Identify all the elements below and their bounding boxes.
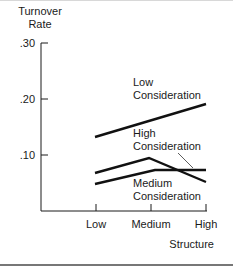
y-tick-label: .10 — [20, 149, 35, 161]
y-axis-title-line2: Rate — [28, 18, 51, 30]
y-axis-title-line1: Turnover — [18, 5, 62, 17]
series-label-medium-line1: Medium — [133, 177, 172, 189]
x-tick-label: Low — [86, 218, 106, 230]
series-label-low-line1: Low — [133, 76, 153, 88]
series-label-low-line2: Consideration — [133, 89, 201, 101]
bottom-rule — [0, 264, 233, 266]
series-label-leader-line — [178, 153, 193, 168]
series-label-high-line1: High — [133, 127, 156, 139]
line-chart: Turnover Rate .30 .20 .10 Low Medium Hig… — [0, 0, 233, 270]
x-tick-label: High — [195, 218, 218, 230]
y-tick-label: .20 — [20, 93, 35, 105]
y-tick-label: .30 — [20, 37, 35, 49]
series-label-high-line2: Consideration — [133, 140, 201, 152]
x-axis-title: Structure — [169, 238, 214, 250]
x-tick-label: Medium — [131, 218, 170, 230]
series-label-medium-line2: Consideration — [133, 190, 201, 202]
